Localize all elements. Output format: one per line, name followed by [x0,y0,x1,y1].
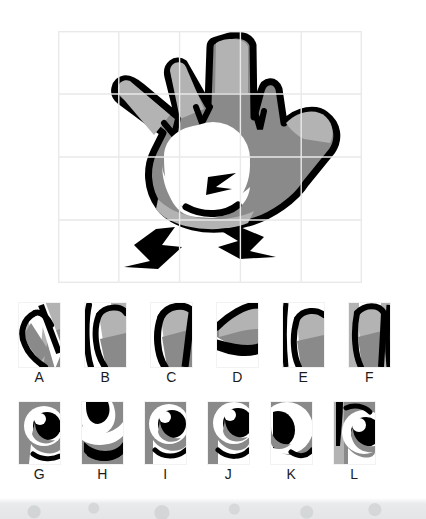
finger-fragment-c-icon [151,303,192,367]
tile-i-image[interactable] [145,402,186,464]
tile-g-image[interactable] [19,402,60,464]
tile-c[interactable]: C [151,303,192,384]
hand-character-illustration [58,31,362,283]
tile-h-image[interactable] [82,402,123,464]
tile-l-label: L [350,467,358,481]
finger-fragment-a-icon [19,303,60,367]
tile-i-label: I [163,467,167,481]
tile-h[interactable]: H [82,402,123,481]
tile-f-image[interactable] [349,303,390,367]
tile-c-label: C [166,370,177,384]
tile-b-label: B [101,370,111,384]
leg-right [218,227,276,259]
tile-f-label: F [365,370,374,384]
answer-tiles-row-bottom: G H [19,402,375,481]
tile-d[interactable]: D [217,303,258,384]
tile-g-label: G [34,467,45,481]
main-picture-panel [58,31,362,283]
tile-a[interactable]: A [19,303,60,384]
finger-highlight-index [215,39,248,93]
finger-fragment-f-icon [349,303,390,367]
finger-fragment-b-icon [85,303,126,367]
tile-b-image[interactable] [85,303,126,367]
tile-a-label: A [35,370,45,384]
worksheet-canvas: A B [0,0,426,519]
tile-c-image[interactable] [151,303,192,367]
eye-fragment-j-icon [208,402,249,464]
tile-b[interactable]: B [85,303,126,384]
finger-fragment-d-icon [217,303,258,367]
page-footer-watermark [0,485,426,519]
eye-fragment-i-icon [145,402,186,464]
tile-e[interactable]: E [283,303,324,384]
tile-k-image[interactable] [271,402,312,464]
tile-d-label: D [232,370,243,384]
eye-fragment-l-icon [334,402,375,464]
tile-l-image[interactable] [334,402,375,464]
leg-left [124,227,182,269]
answer-tiles-row-top: A B [19,303,390,384]
hand-character-svg [58,31,362,283]
tile-j[interactable]: J [208,402,249,481]
tile-k-label: K [287,467,297,481]
tile-j-label: J [225,467,233,481]
tile-a-image[interactable] [19,303,60,367]
tile-k[interactable]: K [271,402,312,481]
finger-fragment-e-icon [283,303,324,367]
tile-e-image[interactable] [283,303,324,367]
tile-h-label: H [97,467,108,481]
tile-d-image[interactable] [217,303,258,367]
tile-l[interactable]: L [334,402,375,481]
eye-fragment-g-icon [19,402,60,464]
tile-f[interactable]: F [349,303,390,384]
tile-g[interactable]: G [19,402,60,481]
eye-fragment-k-icon [271,402,312,464]
tile-j-image[interactable] [208,402,249,464]
tile-i[interactable]: I [145,402,186,481]
tile-e-label: E [299,370,309,384]
eye-fragment-h-icon [82,402,123,464]
